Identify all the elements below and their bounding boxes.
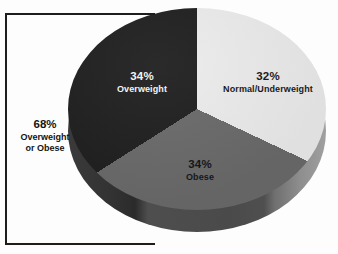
- slice-name-obese: Obese: [155, 172, 245, 183]
- callout-line-1: Overweight: [8, 132, 82, 143]
- slice-percent-normal-underweight: 32%: [208, 70, 328, 84]
- slice-label-normal-underweight: 32% Normal/Underweight: [208, 70, 328, 94]
- bracket-callout-label: 68% Overweight or Obese: [8, 118, 82, 153]
- slice-percent-overweight: 34%: [92, 70, 192, 84]
- callout-percent: 68%: [8, 118, 82, 132]
- slice-percent-obese: 34%: [155, 158, 245, 172]
- callout-line-2: or Obese: [8, 143, 82, 154]
- slice-name-normal-underweight: Normal/Underweight: [208, 84, 328, 95]
- slice-name-overweight: Overweight: [92, 84, 192, 95]
- slice-label-overweight: 34% Overweight: [92, 70, 192, 94]
- slice-label-obese: 34% Obese: [155, 158, 245, 182]
- pie-chart-figure: 32% Normal/Underweight 34% Overweight 34…: [0, 0, 338, 254]
- pie-chart-graphic: [68, 8, 326, 236]
